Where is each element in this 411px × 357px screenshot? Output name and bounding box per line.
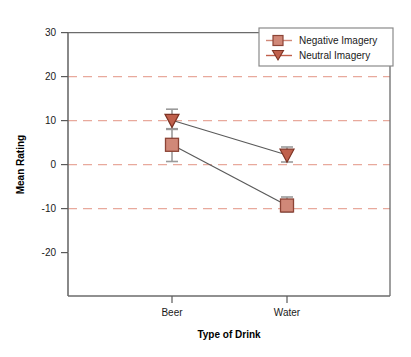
series-neutral-imagery bbox=[165, 109, 294, 162]
xtick-label-beer: Beer bbox=[161, 307, 183, 318]
datapoint-negative-beer bbox=[166, 138, 179, 151]
gridlines bbox=[68, 77, 390, 209]
series-line-negative bbox=[172, 145, 287, 206]
legend-marker-square-icon bbox=[273, 36, 283, 46]
y-axis-ticks bbox=[61, 33, 68, 253]
x-axis-title: Type of Drink bbox=[197, 329, 261, 340]
ytick-label-30: 30 bbox=[45, 27, 57, 38]
legend-label-negative-imagery: Negative Imagery bbox=[299, 35, 377, 46]
legend-label-neutral-imagery: Neutral Imagery bbox=[299, 50, 370, 61]
y-axis-title: Mean Rating bbox=[15, 135, 26, 194]
y-axis-tick-labels: 30 20 10 0 -10 -20 bbox=[42, 27, 57, 258]
series-negative-imagery bbox=[166, 129, 294, 212]
mean-rating-line-chart: 30 20 10 0 -10 -20 Mean Rating Beer Wate… bbox=[0, 0, 411, 357]
series-line-neutral bbox=[172, 120, 287, 155]
legend-item-negative-imagery[interactable]: Negative Imagery bbox=[266, 35, 377, 46]
xtick-label-water: Water bbox=[274, 307, 301, 318]
datapoint-neutral-water bbox=[280, 149, 294, 162]
ytick-label-10: 10 bbox=[45, 115, 57, 126]
x-axis-ticks bbox=[172, 296, 287, 303]
ytick-label-0: 0 bbox=[50, 159, 56, 170]
ytick-label-minus10: -10 bbox=[42, 203, 57, 214]
ytick-label-minus20: -20 bbox=[42, 247, 57, 258]
legend[interactable]: Negative Imagery Neutral Imagery bbox=[259, 28, 393, 66]
chart-container: 30 20 10 0 -10 -20 Mean Rating Beer Wate… bbox=[0, 0, 411, 357]
ytick-label-20: 20 bbox=[45, 71, 57, 82]
datapoint-negative-water bbox=[281, 199, 294, 212]
